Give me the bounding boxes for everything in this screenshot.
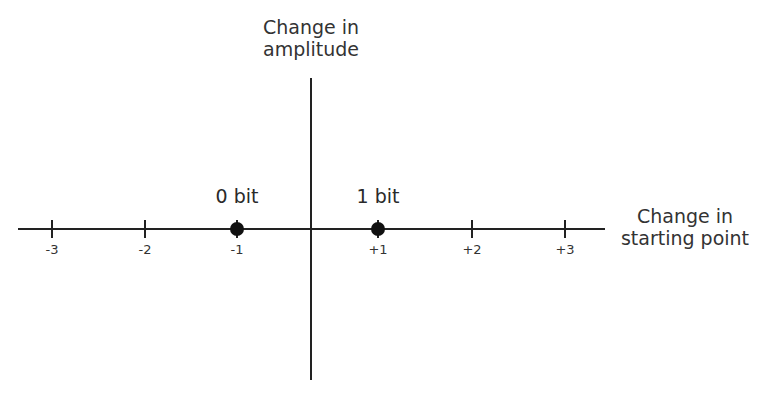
point-label-0-bit: 0 bit [207,186,267,208]
x-axis-title-line2: starting point [610,228,760,250]
x-axis-title-line1: Change in [610,206,760,228]
tick-label-plus-1: +1 [363,243,393,258]
point-0-bit [230,222,244,236]
tick-label-plus-3: +3 [550,243,580,258]
tick-label-plus-2: +2 [457,243,487,258]
y-axis-title: Change in amplitude [251,17,371,61]
tick-label-minus-3: -3 [37,243,67,258]
x-axis-title: Change in starting point [610,206,760,250]
y-axis-title-line2: amplitude [251,39,371,61]
tick-label-minus-2: -2 [130,243,160,258]
point-label-1-bit: 1 bit [348,186,408,208]
point-1-bit [371,222,385,236]
y-axis-title-line1: Change in [251,17,371,39]
tick-label-minus-1: -1 [222,243,252,258]
